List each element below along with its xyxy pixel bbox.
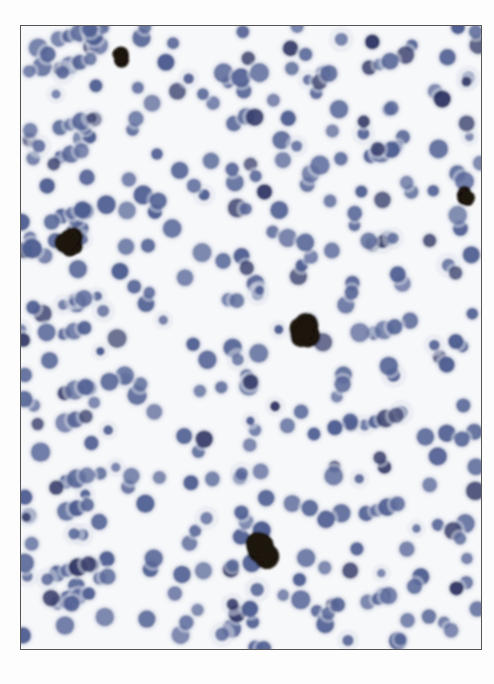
micrograph-frame xyxy=(20,25,482,650)
micrograph-image xyxy=(21,26,481,649)
